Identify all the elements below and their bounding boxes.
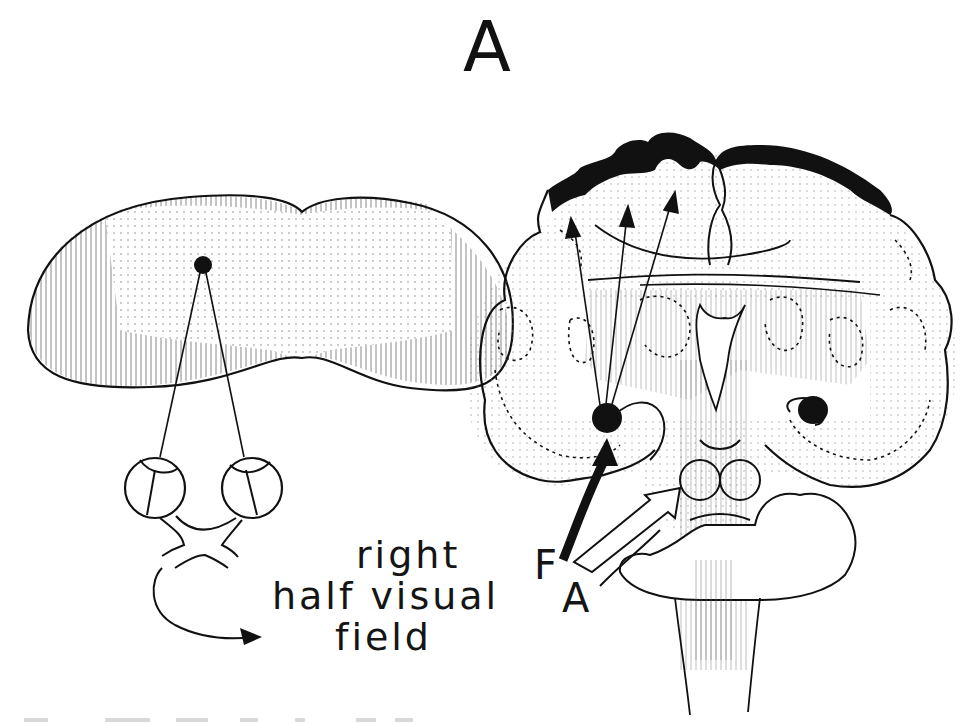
- lateral-geniculate-right: [798, 396, 828, 424]
- lateral-geniculate-left: [592, 403, 622, 433]
- visual-field-label-line-1: right: [356, 536, 460, 574]
- brain-section: [465, 132, 957, 715]
- optic-chiasm: [160, 516, 242, 568]
- visual-field-label-line-2: half visual: [272, 577, 499, 615]
- left-eye-icon: [125, 458, 185, 518]
- right-eye-icon: [222, 458, 282, 518]
- arrow-label-a: A: [562, 578, 592, 618]
- pointer-arrow-icon: [154, 568, 262, 645]
- caption-cropped: [0, 712, 974, 724]
- fixation-point: [194, 256, 212, 274]
- arrow-label-f: F: [534, 545, 560, 585]
- visual-field-shape: [20, 190, 520, 400]
- visual-field-label-line-3: field: [335, 618, 432, 656]
